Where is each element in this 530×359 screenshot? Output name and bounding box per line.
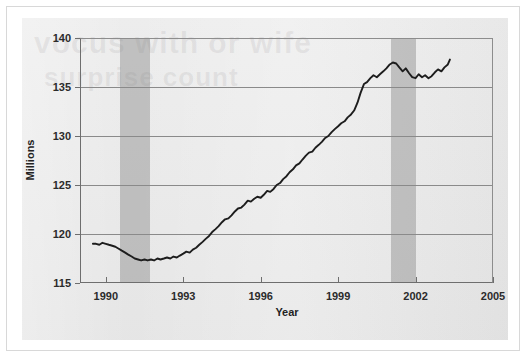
y-tick-label: 140 [53,32,71,44]
y-tick-mark-115 [75,283,80,284]
employment-series-line [93,60,450,261]
x-tick-label: 1990 [94,290,118,302]
x-axis-title: Year [275,306,298,318]
y-tick-label: 115 [53,277,71,289]
plot-area: 115120125130135140 199019931996199920022… [80,38,493,283]
y-tick-label: 130 [53,130,71,142]
figure-container: vocus with or wife surprise count 115120… [0,0,530,359]
y-tick-label: 125 [53,179,71,191]
x-tick-label: 2005 [481,290,505,302]
y-tick-label: 135 [53,81,71,93]
y-axis-title: Millions [24,140,36,181]
x-tick-label: 1999 [326,290,350,302]
y-tick-label: 120 [53,228,71,240]
x-tick-label: 1996 [248,290,272,302]
x-tick-label: 1993 [171,290,195,302]
x-tick-mark-2005 [493,277,494,283]
x-tick-label: 2002 [403,290,427,302]
series-line-chart [80,38,493,283]
